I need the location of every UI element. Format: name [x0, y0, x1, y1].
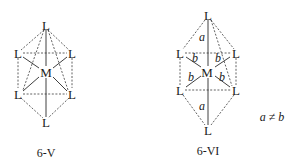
metal-center: M [201, 65, 213, 80]
diagram-canvas: L L L M L L L 6-V [0, 0, 287, 165]
metal-center: M [40, 65, 52, 80]
ligand-upper-right: L [68, 46, 76, 61]
ligand-top: L [204, 8, 212, 23]
bond-label-a-bottom: a [199, 99, 205, 113]
ligand-lower-left: L [14, 87, 22, 102]
ligand-lower-right: L [68, 87, 76, 102]
ligand-upper-left: L [14, 46, 22, 61]
figure-6-V: L L L M L L L 6-V [14, 18, 76, 160]
figure-caption: 6-V [37, 146, 56, 160]
ligand-bottom: L [204, 123, 212, 138]
bond-label-b-upper-right: b [215, 51, 221, 65]
ligand-upper-left: L [176, 46, 184, 61]
bond-label-b-lower-left: b [188, 70, 194, 84]
ligand-upper-right: L [232, 46, 240, 61]
bond-label-b-lower-right: b [219, 70, 225, 84]
bond-label-b-upper-left: b [192, 51, 198, 65]
bond-label-a-top: a [199, 30, 205, 44]
ligand-top: L [42, 18, 50, 33]
ligand-lower-right: L [232, 83, 240, 98]
ligand-bottom: L [42, 115, 50, 130]
figure-caption: 6-VI [197, 144, 220, 158]
ligand-lower-left: L [176, 83, 184, 98]
condition-label: a ≠ b [260, 110, 285, 124]
figure-6-VI: a b b b b a L L L M L L L a ≠ b 6-VI [176, 8, 284, 158]
